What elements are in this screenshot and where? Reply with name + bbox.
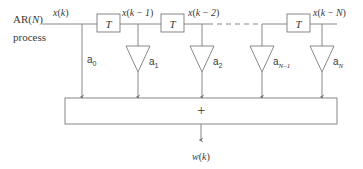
coefficient-label-2: a2 xyxy=(213,57,222,69)
summation-plus-symbol: + xyxy=(197,102,205,119)
signal-label-1: x(k − 1) xyxy=(122,8,153,18)
coefficient-label-3: aN–1 xyxy=(273,57,290,70)
delay-box-label-1: T xyxy=(106,18,112,30)
coefficient-label-0: a0 xyxy=(87,55,96,67)
source-label: AR(N)process xyxy=(13,14,46,43)
delay-box-label-2: T xyxy=(170,18,176,30)
signal-label-2: x(k − 2) xyxy=(188,8,219,18)
ar-process-diagram: AR(N)process x(k)x(k − 1)x(k − 2)x(k − N… xyxy=(0,0,363,169)
output-label: w(k) xyxy=(192,152,210,162)
gain-triangle-4 xyxy=(310,46,334,72)
signal-label-3: x(k − N) xyxy=(313,8,346,18)
source-line-1: AR(N) xyxy=(13,14,46,25)
source-line-2: process xyxy=(13,32,46,43)
gain-triangle-3 xyxy=(250,46,274,72)
gain-triangle-1 xyxy=(126,46,150,72)
diagram-canvas xyxy=(0,0,363,169)
gain-triangle-2 xyxy=(190,46,214,72)
coefficient-label-4: aN xyxy=(333,57,343,70)
coefficient-label-1: a1 xyxy=(149,57,158,69)
delay-box-label-3: T xyxy=(296,18,302,30)
signal-label-0: x(k) xyxy=(53,8,69,18)
